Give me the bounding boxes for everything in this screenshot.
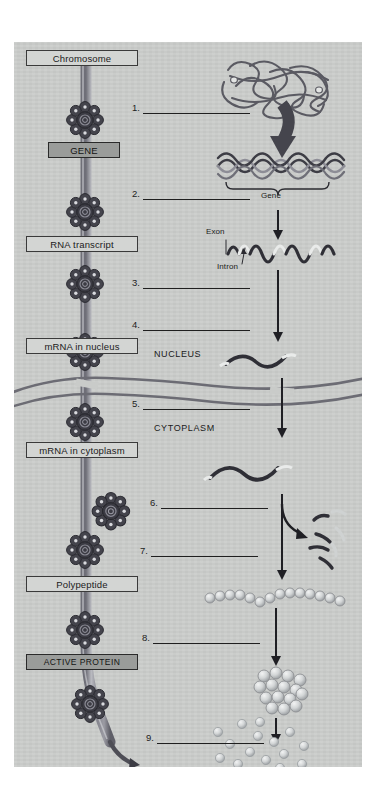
label-box-polypeptide[interactable]: Polypeptide: [26, 576, 138, 592]
answer-rule-5[interactable]: [143, 409, 250, 410]
label-box-rna-transcript[interactable]: RNA transcript: [26, 236, 138, 252]
annotation-exon: Exon: [206, 227, 225, 236]
pre-mrna-strand: [226, 240, 334, 264]
answer-line-7[interactable]: 7.: [140, 544, 258, 558]
polypeptide-chain: [205, 588, 345, 607]
zoom-in-arrow: [270, 104, 296, 158]
label-box-mrna-cytoplasm[interactable]: mRNA in cytoplasm: [26, 442, 138, 458]
dna-double-helix: [218, 153, 344, 178]
answer-line-3[interactable]: 3.: [132, 276, 250, 290]
answer-line-9[interactable]: 9.: [146, 731, 264, 745]
answer-rule-8[interactable]: [153, 643, 260, 644]
answer-number-1: 1.: [132, 101, 140, 115]
answer-number-6: 6.: [150, 496, 158, 510]
compartment-label-cytoplasm: CYTOPLASM: [154, 423, 215, 433]
answer-line-1[interactable]: 1.: [132, 101, 250, 115]
arrow-translation: [277, 494, 308, 580]
answer-number-3: 3.: [132, 276, 140, 290]
answer-line-4[interactable]: 4.: [132, 318, 250, 332]
diagram-panel: Chromosome GENE RNA transcript mRNA in n…: [14, 42, 362, 767]
label-box-active-protein[interactable]: ACTIVE PROTEIN: [26, 654, 138, 670]
answer-rule-7[interactable]: [151, 556, 258, 557]
answer-rule-6[interactable]: [161, 508, 268, 509]
answer-number-7: 7.: [140, 544, 148, 558]
label-box-gene[interactable]: GENE: [48, 142, 120, 158]
answer-line-6[interactable]: 6.: [150, 496, 268, 510]
label-box-mrna-nucleus[interactable]: mRNA in nucleus: [26, 338, 138, 354]
compartment-label-nucleus: NUCLEUS: [154, 349, 201, 359]
answer-number-8: 8.: [142, 631, 150, 645]
arrow-splicing: [273, 270, 283, 342]
ribosome-cluster: [67, 102, 130, 723]
annotation-gene: Gene: [261, 191, 281, 200]
answer-number-2: 2.: [132, 187, 140, 201]
mrna-cytoplasm-strand: [204, 466, 292, 480]
mature-mrna-nucleus: [220, 355, 296, 367]
answer-rule-1[interactable]: [143, 113, 250, 114]
folded-protein: [254, 667, 308, 715]
answer-line-5[interactable]: 5.: [132, 397, 250, 411]
answer-line-8[interactable]: 8.: [142, 631, 260, 645]
label-box-chromosome[interactable]: Chromosome: [26, 50, 138, 66]
answer-number-5: 5.: [132, 397, 140, 411]
arrow-folding: [271, 608, 281, 666]
answer-rule-4[interactable]: [143, 330, 250, 331]
answer-number-9: 9.: [146, 731, 154, 745]
answer-line-2[interactable]: 2.: [132, 187, 250, 201]
answer-rule-9[interactable]: [157, 743, 264, 744]
answer-number-4: 4.: [132, 318, 140, 332]
arrow-transcription: [273, 210, 283, 240]
answer-rule-3[interactable]: [143, 288, 250, 289]
answer-rule-2[interactable]: [143, 199, 250, 200]
annotation-intron: Intron: [217, 262, 238, 271]
trna-fragments: [310, 511, 345, 568]
